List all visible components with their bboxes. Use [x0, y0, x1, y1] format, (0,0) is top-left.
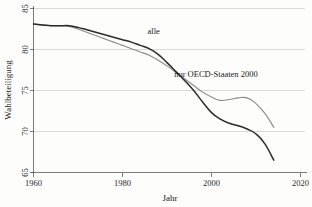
- y-tick-label-70: 70: [20, 127, 30, 136]
- line-chart-svg: 85 80 75 70 65 1960 1980 2000 2020 Jahr …: [0, 0, 312, 207]
- axes: [31, 6, 307, 173]
- x-tick-label-2020: 2020: [292, 178, 309, 188]
- y-tick-label-65: 65: [20, 168, 30, 177]
- y-axis-title: Wahlbeteiligung: [3, 60, 13, 120]
- x-axis-title: Jahr: [163, 193, 178, 203]
- series-line-alle: [34, 24, 274, 160]
- y-axis-tick-labels: 85 80 75 70 65: [20, 4, 30, 177]
- x-tick-label-1980: 1980: [114, 178, 131, 188]
- y-axis-ticks: [30, 9, 34, 173]
- annotation-oecd: nur OECD-Staaten 2000: [174, 69, 258, 79]
- x-axis-ticks: [34, 173, 301, 177]
- series-annotations: alle nur OECD-Staaten 2000: [148, 26, 258, 79]
- y-tick-label-80: 80: [20, 45, 30, 54]
- y-tick-label-85: 85: [20, 4, 30, 13]
- x-tick-label-1960: 1960: [25, 178, 42, 188]
- chart-figure: 85 80 75 70 65 1960 1980 2000 2020 Jahr …: [0, 0, 312, 207]
- annotation-alle: alle: [148, 26, 160, 36]
- series-group: [34, 24, 274, 160]
- x-tick-label-2000: 2000: [203, 178, 220, 188]
- x-axis-tick-labels: 1960 1980 2000 2020: [25, 178, 309, 188]
- y-tick-label-75: 75: [20, 86, 30, 95]
